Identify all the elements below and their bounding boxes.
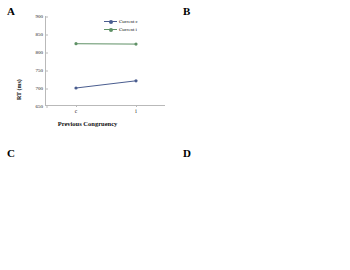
data-point-marker	[74, 86, 77, 89]
panel-a-letter: A	[7, 5, 15, 17]
panel-d-letter: D	[183, 147, 191, 159]
data-point-marker	[134, 79, 137, 82]
legend-marker-icon	[104, 29, 117, 30]
x-axis-tick-label: c	[75, 108, 77, 114]
y-axis-tick: 650	[36, 104, 47, 109]
panel-a-x-axis-label: Previous Congruency	[0, 120, 175, 127]
figure-panel-grid: A RT (ms) 650700750800850900ci Previous …	[0, 0, 350, 270]
y-axis-tick: 850	[36, 32, 47, 37]
legend-marker-icon	[104, 21, 117, 22]
panel-c: C Conflict Adaptation (ms) -60-202060100…	[0, 135, 175, 270]
panel-b: B Accurate Rate (%) 9596979899ci Previou…	[175, 0, 350, 135]
panel-a-legend: Current c Current i	[104, 19, 138, 35]
panel-a-y-axis-label: RT (ms)	[16, 79, 22, 100]
data-point-marker	[134, 42, 137, 45]
y-axis-tick: 900	[36, 14, 47, 19]
legend-item-current-c: Current c	[104, 19, 138, 24]
y-axis-tick: 800	[36, 50, 47, 55]
panel-b-letter: B	[183, 5, 190, 17]
y-axis-tick: 700	[36, 86, 47, 91]
line-series	[76, 81, 136, 88]
data-point-marker	[74, 42, 77, 45]
panel-c-letter: C	[7, 147, 15, 159]
y-axis-tick: 750	[36, 68, 47, 73]
legend-label-current-i: Current i	[119, 27, 137, 32]
panel-d: D Conflict Adaptation (ms) -60-300306090…	[175, 135, 350, 270]
panel-a: A RT (ms) 650700750800850900ci Previous …	[0, 0, 175, 135]
legend-item-current-i: Current i	[104, 27, 138, 32]
legend-label-current-c: Current c	[119, 19, 138, 24]
x-axis-tick-label: i	[135, 108, 137, 114]
